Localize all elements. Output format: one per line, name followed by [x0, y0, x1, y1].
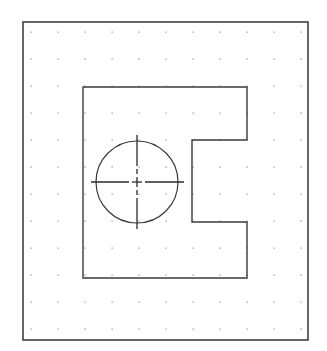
- hole-centerlines: [91, 135, 184, 229]
- grid-dot: [193, 275, 194, 276]
- grid-dot: [220, 59, 221, 60]
- grid-dot: [274, 140, 275, 141]
- grid-dot: [58, 302, 59, 303]
- grid-dot: [139, 32, 140, 33]
- grid-dot: [85, 140, 86, 141]
- grid-dot: [85, 113, 86, 114]
- grid-dot: [139, 302, 140, 303]
- grid-dot: [301, 194, 302, 195]
- grid-dot: [139, 221, 140, 222]
- grid-dot: [274, 329, 275, 330]
- grid-dot: [112, 248, 113, 249]
- grid-dot: [58, 194, 59, 195]
- grid-dot: [220, 302, 221, 303]
- grid-dot: [193, 329, 194, 330]
- grid-dot: [85, 329, 86, 330]
- grid-dot: [166, 140, 167, 141]
- grid-dot: [112, 302, 113, 303]
- grid-dot: [112, 329, 113, 330]
- grid-dot: [58, 140, 59, 141]
- grid-dot: [274, 86, 275, 87]
- grid-dot: [85, 221, 86, 222]
- grid-dot: [247, 329, 248, 330]
- grid-dot: [193, 32, 194, 33]
- grid-dot: [31, 32, 32, 33]
- grid-dot: [247, 167, 248, 168]
- grid-dot: [220, 32, 221, 33]
- grid-dot: [166, 32, 167, 33]
- grid-dot: [112, 275, 113, 276]
- grid-dot: [58, 275, 59, 276]
- grid-dot: [247, 32, 248, 33]
- grid-dot: [31, 275, 32, 276]
- grid-dot: [58, 86, 59, 87]
- grid-dot: [31, 302, 32, 303]
- grid-dot: [247, 194, 248, 195]
- grid-dot: [274, 194, 275, 195]
- grid-dot: [85, 275, 86, 276]
- grid-dot: [166, 221, 167, 222]
- grid-dot: [220, 275, 221, 276]
- grid-dot: [139, 194, 140, 195]
- grid-dot: [301, 86, 302, 87]
- grid-dot: [31, 248, 32, 249]
- grid-dot: [166, 302, 167, 303]
- grid-dot: [301, 248, 302, 249]
- grid-dot: [166, 167, 167, 168]
- drawing-frame: [23, 22, 308, 340]
- grid-dot: [301, 221, 302, 222]
- grid-dot: [247, 302, 248, 303]
- grid-dot: [166, 113, 167, 114]
- grid-dot: [274, 113, 275, 114]
- grid-dot: [139, 329, 140, 330]
- grid-dot: [274, 59, 275, 60]
- grid-dot: [58, 167, 59, 168]
- grid-dot: [166, 194, 167, 195]
- grid-dot: [220, 329, 221, 330]
- grid-dot: [31, 221, 32, 222]
- grid-dot: [112, 167, 113, 168]
- grid-dot: [85, 59, 86, 60]
- grid-dot: [301, 275, 302, 276]
- grid-dot: [166, 275, 167, 276]
- grid-dot: [31, 167, 32, 168]
- grid-dot: [112, 140, 113, 141]
- grid-dot: [139, 275, 140, 276]
- grid-dot: [274, 32, 275, 33]
- grid-dot: [301, 113, 302, 114]
- grid-dot: [220, 194, 221, 195]
- grid-dot: [166, 59, 167, 60]
- grid-dot: [274, 167, 275, 168]
- grid-dot: [112, 221, 113, 222]
- grid-dot: [274, 302, 275, 303]
- grid-dot: [85, 302, 86, 303]
- grid-dot: [220, 113, 221, 114]
- grid-dot: [58, 113, 59, 114]
- grid-dot: [85, 167, 86, 168]
- grid-dot: [31, 329, 32, 330]
- grid-dot: [166, 329, 167, 330]
- grid-dot: [274, 248, 275, 249]
- grid-dot: [274, 221, 275, 222]
- drawing-canvas[interactable]: [0, 0, 327, 351]
- grid-dot: [193, 302, 194, 303]
- grid-dot: [301, 59, 302, 60]
- grid-dot: [193, 248, 194, 249]
- grid-dot: [301, 32, 302, 33]
- grid-dot: [112, 59, 113, 60]
- grid-dot: [301, 167, 302, 168]
- grid-dot: [301, 140, 302, 141]
- snap-grid: [31, 32, 302, 330]
- grid-dot: [58, 221, 59, 222]
- grid-dot: [112, 194, 113, 195]
- grid-dot: [193, 59, 194, 60]
- grid-dot: [31, 86, 32, 87]
- grid-dot: [166, 248, 167, 249]
- grid-dot: [139, 59, 140, 60]
- grid-dot: [139, 248, 140, 249]
- grid-dot: [58, 32, 59, 33]
- grid-dot: [112, 113, 113, 114]
- grid-dot: [112, 32, 113, 33]
- grid-dot: [58, 248, 59, 249]
- grid-dot: [58, 329, 59, 330]
